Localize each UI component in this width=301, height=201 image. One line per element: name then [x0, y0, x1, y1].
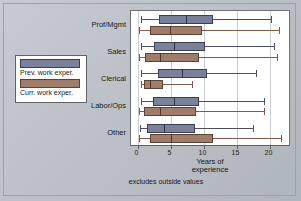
- box-iqr: [150, 134, 213, 143]
- x-axis-line: [131, 145, 289, 146]
- category-label-sales: Sales: [60, 46, 126, 55]
- whisker-cap-upper: [277, 54, 278, 61]
- boxplot-prev-sales: [131, 42, 289, 51]
- whisker-cap-lower: [139, 27, 140, 34]
- x-axis-title-line2: experience: [170, 166, 250, 174]
- x-tick-label: 0: [135, 149, 139, 156]
- median-line: [150, 80, 151, 89]
- figure-background: Prof/MgmtSalesClericalLabor/OpsOther 051…: [0, 0, 301, 201]
- whisker-cap-upper: [281, 135, 282, 142]
- boxplot-curr-labor-ops: [131, 107, 289, 116]
- box-iqr: [150, 26, 201, 35]
- box-iqr: [145, 53, 198, 62]
- median-line: [160, 53, 161, 62]
- whisker-cap-upper: [264, 108, 265, 115]
- box-iqr: [153, 97, 199, 106]
- boxplot-curr-other: [131, 134, 289, 143]
- whisker-cap-upper: [256, 70, 257, 77]
- whisker-cap-lower: [139, 135, 140, 142]
- legend: Prev. work exper. Curr. work exper.: [15, 55, 87, 103]
- legend-swatch-prev: [20, 59, 80, 68]
- median-line: [174, 42, 175, 51]
- boxplot-curr-sales: [131, 53, 289, 62]
- footnote: excludes outside values: [96, 178, 236, 185]
- median-line: [170, 26, 171, 35]
- whisker-cap-lower: [141, 43, 142, 50]
- whisker-cap-lower: [140, 125, 141, 132]
- box-iqr: [144, 80, 163, 89]
- x-axis-title: Years of experience: [170, 158, 250, 174]
- boxplot-prev-other: [131, 124, 289, 133]
- boxplot-curr-clerical: [131, 80, 289, 89]
- whisker-cap-upper: [274, 43, 275, 50]
- whisker-cap-upper: [271, 16, 272, 23]
- median-line: [160, 107, 161, 116]
- boxplot-prev-prof-mgmt: [131, 15, 289, 24]
- whisker-cap-upper: [192, 81, 193, 88]
- x-tick-label: 20: [265, 149, 273, 156]
- whisker-cap-lower: [141, 70, 142, 77]
- whisker-cap-lower: [141, 98, 142, 105]
- box-iqr: [147, 124, 195, 133]
- x-tick-label: 10: [199, 149, 207, 156]
- plot-area: [131, 11, 289, 146]
- legend-swatch-curr: [20, 79, 80, 88]
- median-line: [174, 97, 175, 106]
- box-iqr: [144, 107, 195, 116]
- legend-label-curr: Curr. work exper.: [20, 89, 82, 96]
- whisker-cap-upper: [253, 125, 254, 132]
- whisker-cap-upper: [264, 98, 265, 105]
- median-line: [182, 69, 183, 78]
- whisker-cap-lower: [141, 81, 142, 88]
- median-line: [164, 124, 165, 133]
- box-iqr: [154, 42, 205, 51]
- category-label-other: Other: [60, 128, 126, 137]
- boxplot-prev-labor-ops: [131, 97, 289, 106]
- whisker-cap-upper: [279, 27, 280, 34]
- whisker-cap-lower: [141, 16, 142, 23]
- x-tick-label: 5: [168, 149, 172, 156]
- median-line: [171, 134, 172, 143]
- legend-label-prev: Prev. work exper.: [20, 69, 82, 76]
- boxplot-prev-clerical: [131, 69, 289, 78]
- median-line: [186, 15, 187, 24]
- plot-panel: [130, 10, 290, 146]
- category-label-prof-mgmt: Prof/Mgmt: [60, 19, 126, 28]
- whisker-cap-lower: [139, 108, 140, 115]
- x-tick-label: 15: [232, 149, 240, 156]
- boxplot-curr-prof-mgmt: [131, 26, 289, 35]
- whisker-cap-lower: [139, 54, 140, 61]
